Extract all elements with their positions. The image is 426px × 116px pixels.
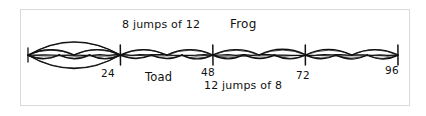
label-bottom-jumps: 12 jumps of 8	[204, 79, 282, 92]
figure-canvas: 8 jumps of 12 Frog Toad 12 jumps of 8 24…	[0, 0, 426, 116]
label-top-jumps: 8 jumps of 12	[122, 18, 200, 31]
tick-label-24: 24	[101, 67, 115, 79]
number-line-drawing	[0, 0, 426, 116]
tick-label-96: 96	[385, 64, 399, 76]
label-toad: Toad	[145, 70, 172, 84]
tick-label-72: 72	[296, 69, 310, 81]
label-frog: Frog	[230, 17, 256, 31]
tick-label-48: 48	[201, 66, 215, 78]
